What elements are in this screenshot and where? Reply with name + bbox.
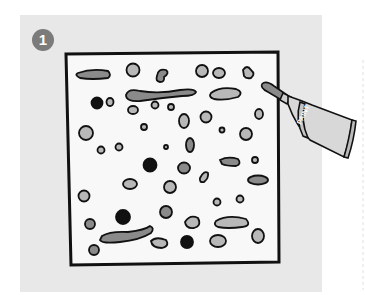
- painted-canvas-illustration: PAINT: [0, 0, 365, 295]
- page-edge: [362, 60, 364, 290]
- canvas-board: [66, 52, 279, 265]
